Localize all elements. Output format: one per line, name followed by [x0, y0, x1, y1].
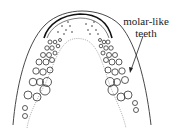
- annotation-arrow-line: [131, 36, 143, 70]
- tooth-dot: [93, 21, 95, 23]
- tooth-socket: [107, 53, 112, 58]
- tooth-socket: [41, 53, 46, 58]
- tooth-socket: [101, 51, 105, 55]
- tooth-dot: [97, 33, 99, 35]
- tooth-socket: [23, 106, 28, 111]
- tooth-socket: [116, 59, 122, 65]
- tooth-socket: [104, 46, 108, 50]
- tooth-dot: [85, 23, 87, 25]
- tooth-dot: [89, 33, 91, 35]
- tooth-socket: [50, 46, 54, 50]
- tooth-dot: [71, 31, 73, 33]
- tooth-socket: [40, 69, 46, 75]
- tooth-socket: [104, 58, 109, 63]
- tooth-socket: [24, 91, 32, 99]
- tooth-socket: [109, 59, 115, 65]
- tooth-socket: [99, 39, 102, 42]
- tooth-socket: [48, 40, 52, 44]
- tooth-dot: [67, 21, 69, 23]
- tooth-dot: [63, 33, 65, 35]
- tooth-socket: [113, 53, 118, 58]
- tooth-socket: [47, 53, 52, 58]
- tooth-socket: [53, 51, 57, 55]
- tooth-dot: [57, 31, 59, 33]
- tooth-dot: [65, 29, 67, 31]
- tooth-socket: [124, 91, 132, 99]
- annotation-arrow-head: [129, 67, 133, 73]
- tooth-socket: [112, 69, 118, 75]
- tooth-socket: [50, 58, 55, 63]
- annotation-label: molar-like teeth: [116, 15, 176, 39]
- inner-palate-outline: [27, 39, 126, 129]
- tooth-socket: [99, 44, 103, 48]
- tooth-socket: [43, 59, 49, 65]
- tooth-socket: [133, 101, 138, 106]
- tooth-socket: [122, 77, 129, 84]
- tooth-dot: [95, 29, 97, 31]
- annotation-line-2: teeth: [116, 27, 176, 39]
- tooth-dot: [69, 25, 71, 27]
- tooth-dot: [61, 25, 63, 27]
- tooth-socket: [56, 44, 60, 48]
- tooth-socket: [53, 40, 57, 44]
- tooth-socket: [29, 78, 37, 86]
- tooth-socket: [23, 114, 28, 119]
- tooth-socket: [102, 40, 106, 44]
- tooth-socket: [134, 108, 139, 113]
- tooth-socket: [40, 85, 50, 95]
- tooth-socket: [119, 68, 125, 74]
- tooth-dot: [87, 29, 89, 31]
- tooth-socket: [36, 59, 42, 65]
- tooth-socket: [106, 40, 110, 44]
- tooth-socket: [109, 46, 113, 50]
- annotation-line-1: molar-like: [116, 15, 176, 27]
- tooth-socket: [45, 46, 49, 50]
- tooth-socket: [33, 68, 39, 74]
- tooth-socket: [59, 39, 62, 42]
- tooth-socket: [33, 93, 41, 101]
- tooth-socket: [105, 67, 111, 73]
- tooth-dot: [91, 25, 93, 27]
